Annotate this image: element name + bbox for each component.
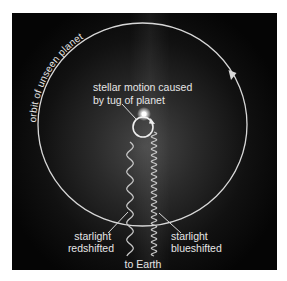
orbit-label-text: orbit of unseen planet [27,31,85,123]
redshift-label: starlight redshifted [68,230,114,254]
stellar-motion-label-line1: stellar motion caused [93,81,192,93]
star-core [142,112,147,117]
blueshifted-wave [151,132,156,256]
to-earth-label: to Earth [125,258,162,270]
planet-orbit [38,23,247,226]
blueshift-label-line2: blueshifted [171,242,222,254]
doppler-diagram: orbit of unseen planet stellar motion ca… [0,0,287,281]
redshift-label-line2: redshifted [68,242,114,254]
blueshift-label-line1: starlight [171,230,208,242]
stellar-motion-leader [122,104,136,119]
redshift-label-line1: starlight [74,230,111,242]
stellar-motion-label-line2: by tug of planet [93,94,165,106]
blueshift-label: starlight blueshifted [171,230,222,254]
stellar-motion-label: stellar motion caused by tug of planet [93,81,195,106]
orbit-label: orbit of unseen planet [27,31,85,123]
redshifted-wave [127,142,133,256]
